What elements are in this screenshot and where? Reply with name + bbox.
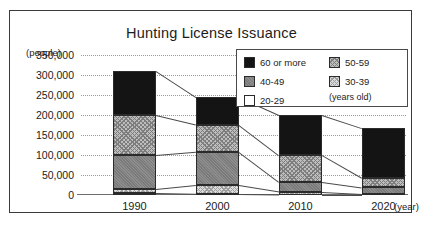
y-axis-tick-label: 100,000 <box>36 149 79 161</box>
bar-2000 <box>196 55 239 195</box>
bar-segment-1990-60-or-more <box>113 71 156 115</box>
bar-1990 <box>113 55 156 195</box>
bar-segment-2000-40-49 <box>196 152 239 186</box>
legend-swatch-30-39 <box>329 76 340 87</box>
y-axis-tick-label: 50,000 <box>42 169 79 181</box>
bar-segment-2010-40-49 <box>279 182 322 192</box>
segment-connector-line <box>156 115 196 126</box>
legend-swatch-60-or-more <box>244 57 255 68</box>
bar-segment-2000-30-39 <box>196 185 239 194</box>
legend-item-60-or-more: 60 or more <box>244 55 306 70</box>
chart-frame: Hunting License Issuance (people) 050,00… <box>9 10 412 213</box>
segment-connector-line <box>239 194 279 195</box>
bar-segment-1990-40-49 <box>113 155 156 189</box>
bar-segment-2020-40-49 <box>362 187 405 193</box>
x-axis-tick-label: 1990 <box>113 200 156 212</box>
bar-segment-2010-50-59 <box>279 155 322 182</box>
bar-segment-2000-50-59 <box>196 125 239 152</box>
segment-connector-line <box>322 182 362 189</box>
chart-legend: 60 or more 40-49 20-29 50-59 30-39 (year… <box>236 49 408 107</box>
legend-label-30-39: 30-39 <box>345 76 369 87</box>
legend-item-20-29: 20-29 <box>244 93 306 108</box>
y-axis-tick-label: 200,000 <box>36 109 79 121</box>
x-axis-tick-label: 2010 <box>279 200 322 212</box>
segment-connector-line <box>239 185 279 192</box>
legend-item-40-49: 40-49 <box>244 74 306 89</box>
bar-segment-2020-60-or-more <box>362 128 405 178</box>
bar-segment-2020-50-59 <box>362 178 405 188</box>
legend-swatch-40-49 <box>244 76 255 87</box>
legend-label-50-59: 50-59 <box>345 57 369 68</box>
legend-swatch-20-29 <box>244 95 255 106</box>
legend-label-60-or-more: 60 or more <box>260 57 306 68</box>
x-axis-tick-label: 2000 <box>196 200 239 212</box>
bar-segment-1990-30-39 <box>113 189 156 193</box>
y-axis-tick-label: 250,000 <box>36 89 79 101</box>
y-axis-tick-label: 300,000 <box>36 69 79 81</box>
x-axis-unit-label: (year) <box>394 201 419 212</box>
segment-connector-line <box>156 185 196 190</box>
y-axis-tick-label: 0 <box>68 189 79 201</box>
bar-segment-2010-30-39 <box>279 192 322 195</box>
legend-item-30-39: 30-39 <box>329 74 369 89</box>
bar-segment-2000-60-or-more <box>196 97 239 125</box>
bar-segment-2010-60-or-more <box>279 115 322 155</box>
legend-item-50-59: 50-59 <box>329 55 369 70</box>
y-axis-tick-label: 150,000 <box>36 129 79 141</box>
segment-connector-line <box>238 152 279 183</box>
segment-connector-line <box>322 115 362 129</box>
y-axis-tick-label: 350,000 <box>36 49 79 61</box>
chart-title: Hunting License Issuance <box>10 25 413 41</box>
bar-segment-1990-50-59 <box>113 115 156 155</box>
legend-label-20-29: 20-29 <box>260 95 284 106</box>
legend-note: (years old) <box>329 92 372 102</box>
segment-connector-line <box>238 125 279 156</box>
legend-label-40-49: 40-49 <box>260 76 284 87</box>
legend-swatch-50-59 <box>329 57 340 68</box>
